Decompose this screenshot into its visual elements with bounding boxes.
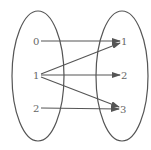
domain-element-0: 0: [33, 36, 39, 47]
arrow-1-to-3: [41, 77, 119, 107]
codomain-element-2: 2: [121, 70, 127, 81]
arrow-1-to-1: [41, 43, 120, 74]
codomain-element-1: 1: [121, 36, 127, 47]
domain-element-1: 1: [33, 70, 39, 81]
domain-element-2: 2: [33, 103, 39, 114]
mapping-diagram: 0 1 2 1 2 3: [0, 0, 151, 150]
codomain-element-3: 3: [120, 104, 126, 115]
arrow-2-to-3: [41, 108, 119, 109]
